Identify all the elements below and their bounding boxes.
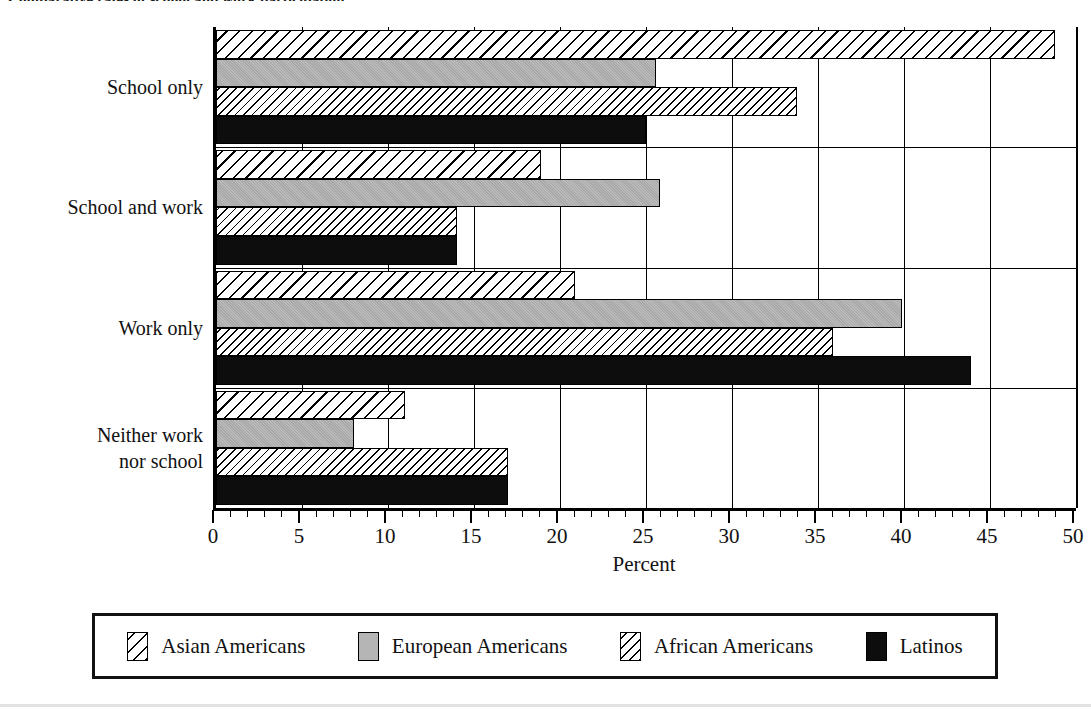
x-tick-major-25 — [642, 510, 644, 523]
bar-european-2 — [216, 299, 902, 328]
x-tick-minor-28 — [694, 510, 695, 517]
group-separator-0 — [216, 147, 1076, 148]
x-tick-minor-21 — [574, 510, 575, 517]
legend-item-african[interactable]: African Americans — [620, 632, 813, 661]
legend-item-european[interactable]: European Americans — [358, 632, 568, 661]
bar-latino-3 — [216, 476, 508, 505]
x-tick-minor-44 — [969, 510, 970, 517]
x-tick-major-40 — [900, 510, 902, 523]
x-tick-minor-29 — [711, 510, 712, 517]
category-label-line: School and work — [0, 194, 203, 220]
x-tick-label-45: 45 — [977, 524, 998, 549]
x-tick-minor-22 — [591, 510, 592, 517]
plot-area — [213, 27, 1076, 511]
x-tick-minor-14 — [453, 510, 454, 517]
x-tick-minor-8 — [350, 510, 351, 517]
x-tick-major-45 — [986, 510, 988, 523]
x-tick-minor-6 — [316, 510, 317, 517]
category-label-3: Neither worknor school — [0, 422, 203, 474]
bar-european-0 — [216, 59, 656, 88]
legend-item-asian[interactable]: Asian Americans — [127, 632, 305, 661]
x-tick-label-40: 40 — [891, 524, 912, 549]
bar-asian-3 — [216, 391, 405, 420]
bar-asian-2 — [216, 271, 575, 300]
x-tick-label-30: 30 — [719, 524, 740, 549]
x-tick-minor-2 — [247, 510, 248, 517]
x-tick-minor-18 — [522, 510, 523, 517]
legend-item-latino[interactable]: Latinos — [866, 632, 963, 661]
x-tick-minor-37 — [849, 510, 850, 517]
x-tick-minor-47 — [1021, 510, 1022, 517]
x-tick-label-10: 10 — [375, 524, 396, 549]
x-tick-minor-11 — [402, 510, 403, 517]
x-tick-minor-26 — [660, 510, 661, 517]
scan-artifact — [0, 704, 1091, 707]
x-tick-major-0 — [212, 510, 214, 523]
x-tick-minor-19 — [539, 510, 540, 517]
x-tick-major-10 — [384, 510, 386, 523]
x-tick-minor-49 — [1055, 510, 1056, 517]
bar-asian-1 — [216, 150, 541, 179]
x-tick-minor-34 — [797, 510, 798, 517]
x-tick-minor-48 — [1038, 510, 1039, 517]
x-tick-minor-12 — [419, 510, 420, 517]
x-tick-label-0: 0 — [208, 524, 219, 549]
category-label-line: Neither work — [0, 422, 203, 448]
x-tick-minor-41 — [918, 510, 919, 517]
x-tick-minor-42 — [935, 510, 936, 517]
bar-african-0 — [216, 87, 797, 116]
category-label-0: School only — [0, 74, 203, 100]
x-tick-label-15: 15 — [461, 524, 482, 549]
x-tick-major-35 — [814, 510, 816, 523]
chart-legend: Asian AmericansEuropean AmericansAfrican… — [92, 613, 998, 679]
legend-label-latino: Latinos — [900, 634, 963, 659]
bar-latino-1 — [216, 236, 457, 265]
x-tick-minor-1 — [230, 510, 231, 517]
x-tick-label-35: 35 — [805, 524, 826, 549]
x-tick-label-5: 5 — [294, 524, 305, 549]
legend-swatch-latino-icon — [866, 632, 887, 661]
x-tick-minor-36 — [832, 510, 833, 517]
x-tick-minor-33 — [780, 510, 781, 517]
legend-label-african: African Americans — [654, 634, 813, 659]
x-tick-minor-7 — [333, 510, 334, 517]
x-tick-minor-39 — [883, 510, 884, 517]
category-label-line: nor school — [0, 448, 203, 474]
plot-inner — [216, 27, 1076, 508]
bar-african-3 — [216, 448, 508, 477]
x-tick-minor-46 — [1004, 510, 1005, 517]
bar-latino-2 — [216, 356, 971, 385]
x-tick-minor-23 — [608, 510, 609, 517]
x-tick-minor-13 — [436, 510, 437, 517]
x-tick-major-20 — [556, 510, 558, 523]
x-tick-minor-16 — [488, 510, 489, 517]
x-tick-label-50: 50 — [1063, 524, 1084, 549]
x-tick-major-50 — [1072, 510, 1074, 523]
x-tick-minor-17 — [505, 510, 506, 517]
x-tick-minor-31 — [746, 510, 747, 517]
legend-label-european: European Americans — [392, 634, 568, 659]
category-label-line: Work only — [0, 315, 203, 341]
bar-european-3 — [216, 419, 354, 448]
legend-swatch-asian-icon — [127, 632, 148, 661]
category-label-2: Work only — [0, 315, 203, 341]
x-axis-title: Percent — [213, 552, 1075, 577]
x-tick-minor-32 — [763, 510, 764, 517]
chart-title: Comparative rates of school and work par… — [8, 0, 345, 1]
x-tick-minor-38 — [866, 510, 867, 517]
x-tick-label-25: 25 — [633, 524, 654, 549]
bar-african-2 — [216, 328, 833, 357]
x-tick-minor-3 — [264, 510, 265, 517]
x-tick-minor-9 — [367, 510, 368, 517]
x-tick-label-20: 20 — [547, 524, 568, 549]
x-tick-minor-4 — [281, 510, 282, 517]
category-label-1: School and work — [0, 194, 203, 220]
x-tick-minor-27 — [677, 510, 678, 517]
group-separator-2 — [216, 388, 1076, 389]
legend-swatch-european-icon — [358, 632, 379, 661]
bar-european-1 — [216, 179, 660, 208]
legend-label-asian: Asian Americans — [161, 634, 305, 659]
bar-african-1 — [216, 207, 457, 236]
category-label-line: School only — [0, 74, 203, 100]
legend-swatch-african-icon — [620, 632, 641, 661]
